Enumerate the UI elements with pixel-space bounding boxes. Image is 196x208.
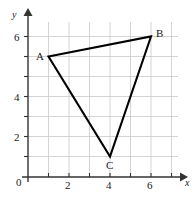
x-axis — [22, 173, 188, 182]
vertex-label-a: A — [36, 51, 44, 62]
y-axis-label: y — [12, 10, 16, 20]
y-tick-label-2: 2 — [14, 132, 20, 143]
coordinate-plane-figure: y x 0 2 4 6 2 4 6 A B C — [0, 0, 196, 208]
y-axis — [24, 8, 33, 182]
plot-canvas — [0, 0, 196, 208]
y-tick-label-4: 4 — [14, 92, 20, 103]
y-tick-label-6: 6 — [14, 32, 20, 43]
x-axis-label: x — [185, 178, 189, 188]
x-tick-label-2: 2 — [65, 180, 71, 191]
origin-label: 0 — [16, 177, 22, 188]
x-tick-label-4: 4 — [106, 180, 112, 191]
horizontal-gridlines — [28, 37, 178, 157]
vertex-label-b: B — [156, 28, 163, 39]
vertex-label-c: C — [106, 160, 113, 171]
x-tick-label-6: 6 — [147, 180, 153, 191]
